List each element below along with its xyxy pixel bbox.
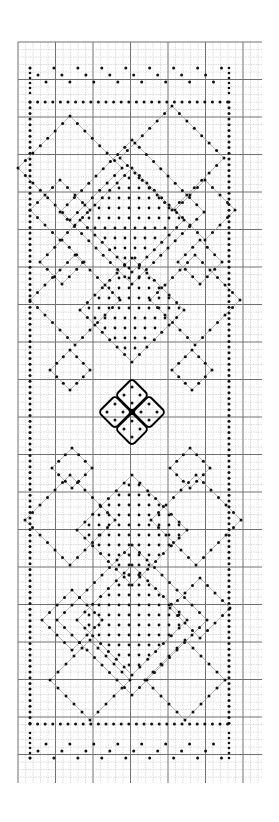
lace-pricking-diagram xyxy=(0,0,279,822)
